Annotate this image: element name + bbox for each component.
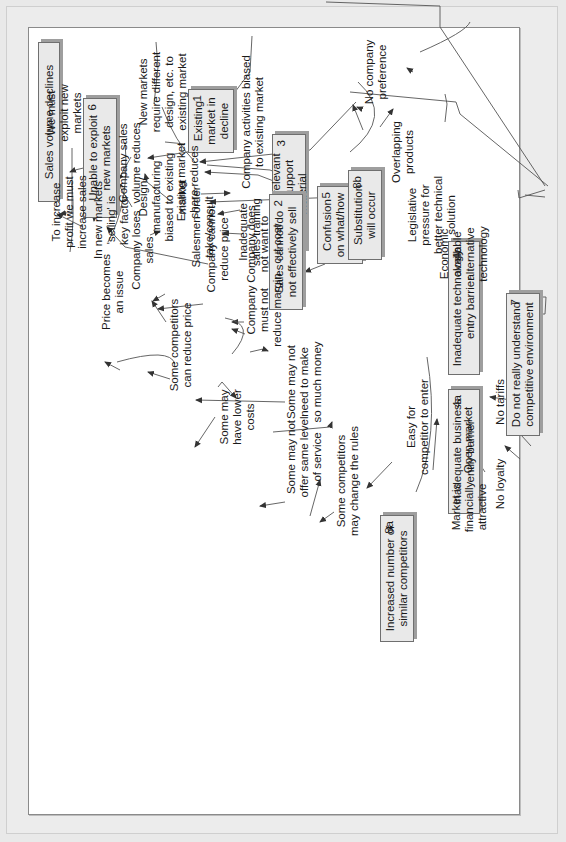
label-to-increase-profit: To increase profit we must increase sale… [50,157,89,267]
diagram-canvas: Sales volume declines Unable to exploit … [0,0,566,842]
box-number: 7 [509,299,522,305]
box-increased-competitors: Increased number of similar competitors … [380,515,414,642]
label-competitors-reduce-price: Some competitors can reduce price [168,290,194,400]
and-arc-loses [117,355,175,364]
label-company-cannot-reduce: Company cannot reduce price [205,194,231,304]
box-number: 1 [191,95,204,101]
label-company-activities: Company activities biased to existing ma… [240,37,266,207]
and-arc-cannot-reduce [225,318,243,354]
label-not-much-money: Some may not need to make so much money [285,322,324,442]
box-number: 8b [351,176,364,189]
label-open-market: Open market [462,400,475,480]
label-no-loyalty: No loyalty [494,444,507,524]
box-number: 6 [86,104,99,110]
label-price-issue: Price becomes an issue [100,242,126,342]
box-do-not-understand: Do not really understand competitive env… [506,293,540,436]
label-we-must-exploit: We must exploit new markets [45,68,84,158]
label-change-rules: Some competitors may change the rules [335,416,361,546]
label-company-must-not: Company must not reduce margin [245,260,284,360]
label-existing-share: Existing market share reduces [175,127,201,237]
box-number: 5 [320,192,333,198]
label-economic-alternative: Economic available alternative technolog… [438,211,490,297]
label-company-loses-sales: Company loses sales [130,200,156,300]
label-no-tariffs: No tariffs [494,362,507,442]
box-number: 8a [383,521,396,534]
box-substitution: Substitution will occur 8b [348,170,382,260]
label-easy-for-competitor: Easy for competitor to enter [405,367,431,487]
box-number: 3 [275,140,288,146]
label-no-company-preference: No company preference [363,32,389,112]
label-lower-costs: Some may have lower costs [218,372,257,462]
